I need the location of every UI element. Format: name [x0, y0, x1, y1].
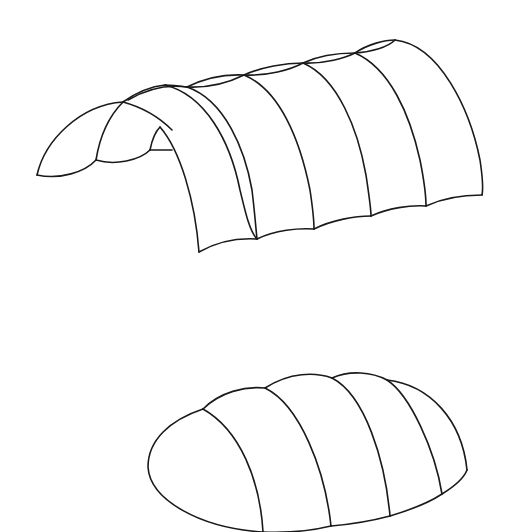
drawing-canvas — [0, 0, 511, 532]
segmented-rounded-pod — [148, 373, 467, 532]
segmented-barrel-vault — [37, 40, 483, 252]
line-drawing — [0, 0, 511, 532]
